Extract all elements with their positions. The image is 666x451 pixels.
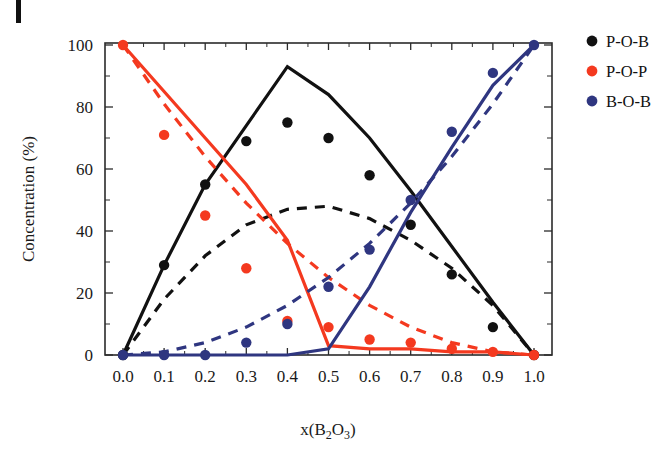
data-point-p-o-p (447, 344, 457, 354)
data-point-p-o-b (323, 133, 333, 143)
data-point-b-o-b (488, 68, 498, 78)
x-tick-label: 0.5 (318, 367, 339, 386)
data-point-p-o-p (200, 210, 210, 220)
x-tick-label: 1.0 (523, 367, 544, 386)
data-point-p-o-p (159, 130, 169, 140)
y-axis-tick-labels: 020406080100 (68, 36, 94, 365)
data-point-p-o-p (323, 322, 333, 332)
svg-text:Concentration (%): Concentration (%) (19, 136, 38, 262)
legend-marker-p-o-p (587, 66, 598, 77)
x-tick-label: 0.6 (359, 367, 380, 386)
chart-plot-area: 0.00.10.20.30.40.50.60.70.80.91.0 020406… (0, 0, 666, 451)
x-tick-label: 0.0 (112, 367, 133, 386)
x-axis-title-text: x(B2O3) (300, 420, 355, 442)
x-axis-ticks (123, 43, 534, 355)
x-tick-label: 0.8 (441, 367, 462, 386)
data-point-b-o-b (282, 319, 292, 329)
data-point-p-o-p (364, 334, 374, 344)
y-axis-title: Concentration (%) (19, 136, 38, 262)
data-point-p-o-p (241, 263, 251, 273)
x-axis-title: x(B2O3) (300, 420, 355, 442)
data-point-p-o-b (282, 117, 292, 127)
y-tick-label: 0 (85, 346, 94, 365)
data-point-b-o-b (200, 350, 210, 360)
marker-layer (118, 40, 539, 360)
legend-label-p-o-b: P-O-B (606, 32, 649, 51)
x-tick-label: 0.4 (277, 367, 299, 386)
data-point-p-o-b (406, 220, 416, 230)
legend-marker-p-o-b (587, 36, 598, 47)
data-point-b-o-b (529, 40, 539, 50)
y-tick-label: 20 (76, 284, 93, 303)
x-tick-label: 0.3 (236, 367, 257, 386)
data-point-b-o-b (364, 244, 374, 254)
y-tick-label: 40 (76, 222, 93, 241)
data-point-b-o-b (447, 127, 457, 137)
series-line-b-o-b-solid (123, 45, 534, 355)
data-point-p-o-b (241, 136, 251, 146)
y-tick-label: 60 (76, 160, 93, 179)
data-point-p-o-p (406, 337, 416, 347)
data-point-b-o-b (323, 282, 333, 292)
data-point-p-o-b (159, 260, 169, 270)
y-axis-ticks (105, 45, 552, 355)
series-line-b-o-b-dashed (123, 45, 534, 355)
data-point-p-o-p (118, 40, 128, 50)
series-layer (123, 45, 534, 355)
y-tick-label: 80 (76, 98, 93, 117)
x-tick-label: 0.2 (195, 367, 216, 386)
legend-label-p-o-p: P-O-P (606, 62, 647, 81)
series-line-p-o-p-dashed (123, 45, 534, 355)
x-tick-label: 0.1 (153, 367, 174, 386)
data-point-b-o-b (118, 350, 128, 360)
legend-marker-b-o-b (587, 96, 598, 107)
data-point-p-o-b (447, 269, 457, 279)
data-point-p-o-p (529, 350, 539, 360)
x-tick-label: 0.9 (482, 367, 503, 386)
series-line-p-o-p-solid (123, 45, 534, 355)
series-line-p-o-b-solid (123, 67, 534, 355)
data-point-p-o-b (364, 170, 374, 180)
axis-frame (105, 43, 552, 355)
data-point-p-o-p (488, 347, 498, 357)
data-point-p-o-b (488, 322, 498, 332)
y-tick-label: 100 (68, 36, 94, 55)
x-tick-label: 0.7 (400, 367, 422, 386)
legend-label-b-o-b: B-O-B (606, 92, 651, 111)
figure-root: 0.00.10.20.30.40.50.60.70.80.91.0 020406… (0, 0, 666, 451)
chart-legend: P-O-BP-O-PB-O-B (587, 32, 651, 111)
data-point-b-o-b (406, 195, 416, 205)
chart-svg: 0.00.10.20.30.40.50.60.70.80.91.0 020406… (0, 0, 666, 451)
data-point-b-o-b (159, 350, 169, 360)
data-point-b-o-b (241, 337, 251, 347)
data-point-p-o-b (200, 179, 210, 189)
series-line-p-o-b-dashed (123, 206, 534, 355)
x-axis-tick-labels: 0.00.10.20.30.40.50.60.70.80.91.0 (112, 367, 544, 386)
